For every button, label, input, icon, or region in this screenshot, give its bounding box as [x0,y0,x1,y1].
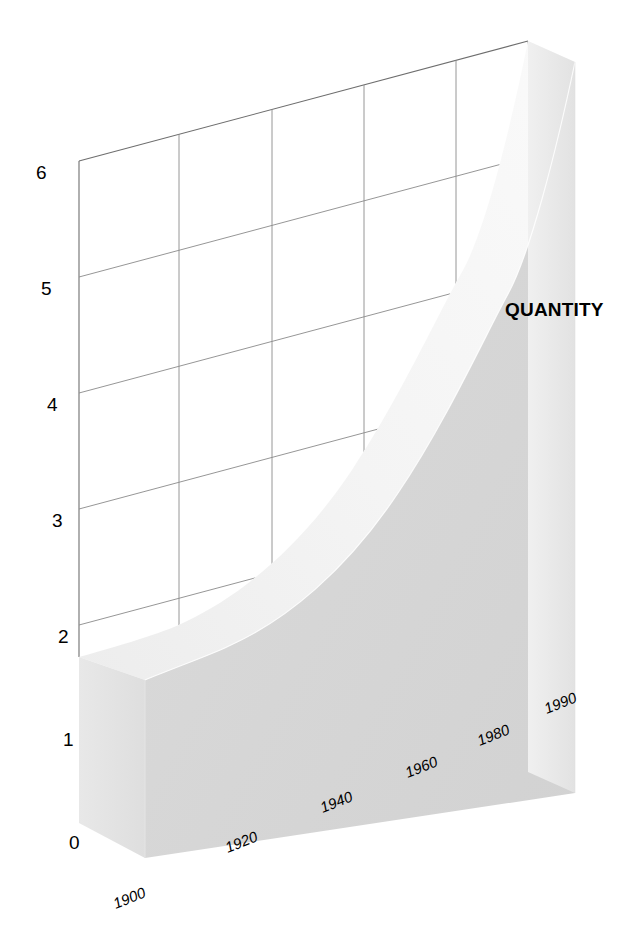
grid-top-edge [79,41,528,161]
ytick-label-3: 3 [52,511,63,530]
ytick-label-2: 2 [58,627,69,646]
surface-right-cap [528,41,575,793]
ytick-label-4: 4 [47,395,58,414]
chart-canvas: 6 5 4 3 2 1 0 1900 1920 1940 1960 1980 1… [0,0,637,952]
ytick-label-6: 6 [36,163,47,182]
ytick-label-1: 1 [63,730,74,749]
series-label-quantity: QUANTITY [505,300,604,319]
ytick-label-5: 5 [41,279,52,298]
surface-left-cap [79,657,145,858]
gridline-value-5 [79,157,528,277]
chart-graphic [0,0,637,952]
ytick-label-0: 0 [69,833,80,852]
